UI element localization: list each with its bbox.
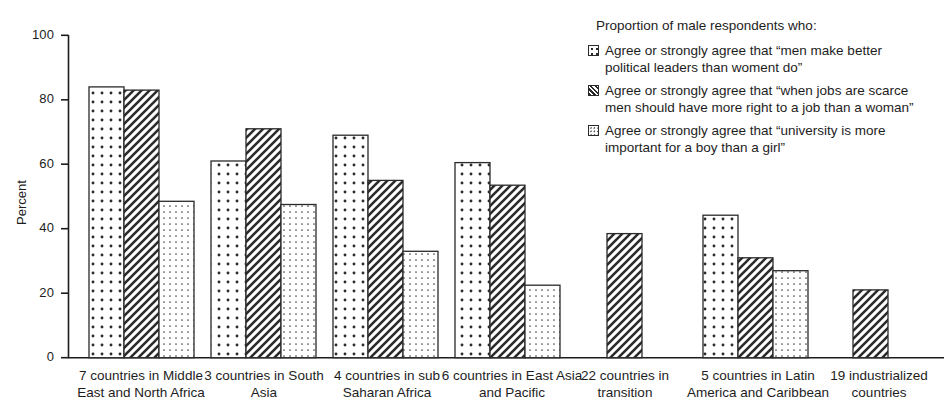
bar-group-5 (607, 234, 642, 358)
legend: Proportion of male respondents who: Agre… (588, 18, 940, 162)
bar (773, 271, 808, 358)
y-tick-label-0: 0 (20, 349, 54, 364)
legend-swatch-diagonal-hatch-icon (588, 85, 599, 96)
bar (490, 185, 525, 358)
legend-label-series-1: Agree or strongly agree that “men make b… (605, 42, 882, 76)
y-axis-title: Percent (14, 180, 29, 225)
bar (525, 285, 560, 358)
bar (246, 129, 281, 358)
y-tick-label-100: 100 (20, 27, 54, 42)
legend-item-series-3: Agree or strongly agree that “university… (588, 122, 940, 156)
legend-item-series-2: Agree or strongly agree that “when jobs … (588, 82, 940, 116)
x-label-line1: 3 countries in South (204, 368, 323, 383)
bar (281, 205, 316, 358)
bar (703, 215, 738, 358)
x-label-line1: 5 countries in Latin (701, 368, 814, 383)
y-tick-label-20: 20 (20, 285, 54, 300)
legend-title: Proportion of male respondents who: (596, 18, 940, 33)
legend-label-line2: men should have more right to a job than… (605, 99, 913, 116)
legend-item-series-1: Agree or strongly agree that “men make b… (588, 42, 940, 76)
y-tick-label-80: 80 (20, 91, 54, 106)
bar (853, 290, 888, 358)
legend-label-line2: important for a boy than a girl” (605, 139, 886, 156)
bar (403, 251, 438, 357)
x-label-line1: 22 countries in (581, 368, 669, 383)
legend-label-line1: Agree or strongly agree that “when jobs … (605, 83, 908, 98)
legend-label-line1: Agree or strongly agree that “university… (605, 123, 886, 138)
y-tick-label-60: 60 (20, 156, 54, 171)
legend-label-line1: Agree or strongly agree that “men make b… (605, 43, 882, 58)
legend-label-line2: political leaders than woment do” (605, 59, 882, 76)
legend-swatch-dots-sparse-icon (588, 45, 599, 56)
y-axis-ticks (61, 35, 69, 357)
legend-swatch-dots-fine-icon (588, 125, 599, 136)
x-label-line2: countries (815, 384, 943, 401)
bar-chart: 100 80 60 40 20 0 Percent 7 countries in… (0, 0, 948, 416)
bar-group-7 (853, 290, 888, 358)
bar (368, 180, 403, 357)
bar (124, 90, 159, 358)
bar (455, 163, 490, 358)
bar (159, 201, 194, 357)
bar-group-2 (211, 129, 316, 358)
bar (738, 258, 773, 358)
x-label-line1: 19 industrialized (830, 368, 928, 383)
bar-group-1 (89, 87, 194, 358)
bar (333, 135, 368, 358)
bar-group-4 (455, 163, 560, 358)
bar (607, 234, 642, 358)
bar (89, 87, 124, 358)
bar-group-3 (333, 135, 438, 358)
legend-label-series-3: Agree or strongly agree that “university… (605, 122, 886, 156)
x-label-group-7: 19 industrialized countries (815, 367, 943, 401)
legend-label-series-2: Agree or strongly agree that “when jobs … (605, 82, 913, 116)
bar (211, 161, 246, 358)
bar-group-6 (703, 215, 808, 358)
